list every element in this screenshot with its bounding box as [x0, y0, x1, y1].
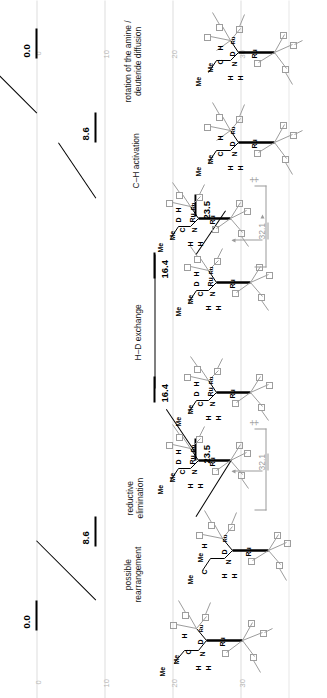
svg-text:H: H — [204, 415, 211, 420]
svg-text:Ru: Ru — [250, 49, 257, 58]
svg-text:Me: Me — [186, 404, 193, 414]
svg-text:Ru: Ru — [197, 624, 203, 632]
svg-text:N: N — [230, 61, 237, 66]
svg-text:Ru: Ru — [188, 455, 195, 464]
svg-text:Me: Me — [186, 294, 193, 304]
svg-text:H: H — [204, 305, 211, 310]
svg-text:H: H — [230, 573, 237, 578]
svg-text:Ru: Ru — [189, 202, 195, 210]
svg-text:N: N — [208, 401, 215, 406]
svg-text:H: H — [236, 165, 243, 170]
svg-text:Ru: Ru — [250, 139, 257, 148]
svg-text:D: D — [228, 51, 235, 56]
gridline-0 — [36, 0, 37, 698]
svg-text:Me: Me — [168, 230, 175, 240]
svg-text:D: D — [220, 549, 227, 554]
svg-text:Me: Me — [196, 552, 203, 562]
tick-label-10-bottom: 10 — [101, 49, 110, 58]
svg-text:Me: Me — [158, 666, 165, 676]
svg-text:H: H — [216, 135, 223, 140]
gridline-20 — [172, 0, 173, 698]
svg-text:D: D — [174, 459, 181, 464]
svg-text:Me: Me — [168, 472, 175, 482]
tick-label-10-top: 10 — [101, 678, 110, 687]
energy-profile-figure: 30 20 10 0 30 20 10 0 0 — [0, 0, 327, 698]
svg-text:Me: Me — [186, 574, 193, 584]
svg-text:H: H — [174, 449, 181, 454]
step-label-rotation: rotation of the amine / deuteride diffus… — [122, 20, 142, 102]
step-label-hd-exchange: H–D exchange — [132, 304, 142, 360]
level-label-int4: 8.6 — [79, 531, 90, 544]
level-bar-int3 — [153, 376, 155, 402]
tick-label-20-bottom: 20 — [169, 49, 178, 58]
svg-text:Ru: Ru — [206, 387, 213, 396]
structure-int4: Me C Me H N H H Ru D Ru — [180, 506, 298, 598]
step-label-reductive-elimination-line2: elimination — [134, 477, 144, 518]
svg-text:H: H — [194, 665, 201, 670]
svg-text:C: C — [216, 151, 223, 156]
svg-text:Ru: Ru — [207, 376, 213, 384]
svg-text:H: H — [236, 75, 243, 80]
tick-label-0-top: 0 — [33, 680, 42, 684]
svg-text:N: N — [208, 291, 215, 296]
connector-reactant-int1 — [0, 53, 37, 113]
svg-text:Ru: Ru — [208, 457, 215, 466]
svg-text:H: H — [192, 271, 199, 276]
level-bar-reactant — [35, 28, 37, 58]
step-label-possible-rearrangement: possible rearrangement — [122, 546, 142, 602]
svg-text:C: C — [216, 59, 223, 64]
svg-text:Ru: Ru — [228, 279, 235, 288]
svg-text:Me: Me — [156, 484, 163, 494]
level-label-product: 0.0 — [20, 615, 31, 628]
step-label-reductive-elimination: reductive elimination — [124, 477, 144, 518]
plot-area: 30 20 10 0 30 20 10 0 0 — [0, 0, 327, 698]
svg-text:H: H — [186, 483, 193, 488]
svg-text:N: N — [190, 469, 197, 474]
level-bar-int4 — [94, 516, 96, 546]
level-label-reactant: 0.0 — [20, 44, 31, 57]
svg-text:Ru: Ru — [188, 213, 195, 222]
svg-text:Me: Me — [194, 76, 201, 86]
svg-text:C: C — [196, 401, 203, 406]
svg-text:H: H — [226, 165, 233, 170]
svg-text:Me: Me — [206, 154, 213, 164]
svg-text:Ru: Ru — [207, 266, 213, 274]
connector-int4-product — [36, 540, 96, 600]
gridline-10 — [104, 0, 105, 698]
svg-text:H: H — [192, 381, 199, 386]
svg-text:Ru: Ru — [229, 126, 235, 134]
svg-text:D: D — [174, 217, 181, 222]
figure-canvas: 30 20 10 0 30 20 10 0 0 — [0, 0, 327, 698]
svg-text:H: H — [204, 665, 211, 670]
level-label-int3: 16.4 — [158, 384, 169, 403]
level-bar-int1 — [94, 112, 96, 142]
svg-text:H: H — [214, 305, 221, 310]
structure-ts2: Me Me C D H N H H Ru Ru Ru — [150, 420, 254, 506]
step-label-possible-rearrangement-line1: possible — [122, 546, 132, 602]
svg-text:Me: Me — [206, 62, 213, 72]
svg-text:C: C — [200, 569, 207, 574]
step-label-reductive-elimination-line1: reductive — [124, 477, 134, 518]
svg-text:Ru: Ru — [229, 36, 235, 44]
svg-text:H: H — [180, 633, 187, 638]
step-label-hd-exchange-line1: H–D exchange — [132, 304, 142, 360]
svg-text:H: H — [196, 483, 203, 488]
step-label-rotation-line2: deuteride diffusion — [132, 20, 142, 102]
svg-text:H: H — [216, 45, 223, 50]
svg-text:Me: Me — [156, 242, 163, 252]
svg-text:C: C — [178, 469, 185, 474]
svg-text:H: H — [200, 543, 207, 548]
svg-text:D: D — [228, 141, 235, 146]
svg-text:N: N — [224, 559, 231, 564]
step-label-ch-activation: C–H activation — [130, 133, 140, 188]
svg-text:Me: Me — [194, 166, 201, 176]
svg-text:Ru: Ru — [189, 444, 195, 452]
svg-text:Ru: Ru — [228, 389, 235, 398]
svg-text:H: H — [214, 415, 221, 420]
svg-text:N: N — [198, 651, 205, 656]
svg-text:Ru: Ru — [206, 277, 213, 286]
svg-text:Ru: Ru — [208, 215, 215, 224]
svg-text:Me: Me — [174, 306, 181, 316]
step-label-rotation-line1: rotation of the amine / — [122, 20, 132, 102]
svg-text:D: D — [192, 281, 199, 286]
